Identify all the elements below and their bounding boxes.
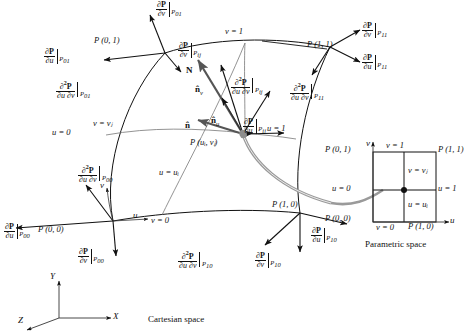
label-P11: P (1, 1)	[307, 40, 333, 49]
label-axis-x: X	[113, 312, 119, 321]
deriv-d2Pdudv-P00: ∂2P∂u ∂v P00	[78, 164, 112, 184]
label-param-corner-00: P (0, 0)	[325, 214, 351, 223]
label-N-vector: N	[186, 66, 193, 75]
label-surface-v-eq-1: v = 1	[225, 27, 243, 36]
vectors-at-P11	[312, 30, 360, 75]
deriv-dPdv-Pij: ∂P∂v Pij	[178, 42, 201, 59]
label-local-v: v	[100, 181, 104, 190]
parametric-axes	[373, 142, 449, 222]
dPdu-P11-arrow	[330, 47, 360, 62]
label-surface-u-eq-1: u = 1	[267, 124, 286, 133]
label-P10: P (1, 0)	[272, 200, 298, 209]
label-axis-y: Y	[50, 272, 55, 281]
dPdu-P00-arrow	[16, 221, 113, 228]
deriv-dPdu-Pij: ∂P∂u Pij	[243, 118, 266, 135]
deriv-d2Pdudv-P10: ∂2P∂u ∂v P10	[178, 250, 212, 270]
label-param-axis-u: u	[450, 216, 455, 225]
deriv-d2Pdudv-P11: ∂2P∂u ∂v P11	[290, 82, 324, 102]
deriv-dPdv-P00: ∂P∂v P00	[78, 248, 104, 265]
deriv-dPdu-P11: ∂P∂u P11	[362, 54, 387, 71]
label-surface-v-eq-0: v = 0	[151, 216, 169, 225]
dPdv-P11-arrow	[330, 30, 360, 47]
deriv-d2Pdudv-P01: ∂2P∂u ∂v P01	[56, 80, 90, 100]
vectors-at-P00	[16, 185, 116, 256]
dPdu-P01-arrow	[104, 53, 165, 60]
label-axis-z: Z	[18, 316, 23, 325]
caption-cartesian-space: Cartesian space	[148, 315, 204, 324]
d2Pdudv-P10-arrow	[265, 213, 300, 245]
deriv-dPdu-P10: ∂P∂u P10	[311, 227, 337, 244]
parametric-space-box	[373, 152, 436, 222]
deriv-dPdu-P01: ∂P∂u P01	[44, 48, 70, 65]
z-axis	[27, 318, 59, 330]
d2Pdudv-P11-arrow	[312, 47, 330, 75]
label-param-right: u = 1	[438, 184, 457, 193]
label-n-hat: n̂	[185, 121, 190, 130]
caption-parametric-space: Parametric space	[365, 240, 426, 249]
label-param-top: v = 1	[386, 141, 404, 150]
label-param-corner-10: P (1, 0)	[408, 222, 434, 231]
label-n-hat-u: n̂u	[211, 116, 219, 127]
label-P01: P (0, 1)	[94, 36, 120, 45]
label-param-corner-01: P (0, 1)	[325, 145, 351, 154]
label-surface-u-eq-0: u = 0	[52, 128, 71, 137]
label-param-axis-v: v	[366, 139, 370, 148]
dPdv-P00-arrow	[113, 221, 116, 256]
label-param-bottom: v = 0	[376, 223, 394, 232]
label-P00: P (0, 0)	[38, 225, 64, 234]
label-param-inner-v: v = vⱼ	[408, 166, 427, 175]
deriv-dPdu-P00: ∂P∂u P00	[4, 223, 30, 240]
deriv-d2Pdudv-Pij: ∂2P∂u ∂v Pij	[231, 76, 263, 96]
label-param-left: u = 0	[332, 184, 351, 193]
param-point-marker	[401, 187, 407, 193]
deriv-dPdv-P01: ∂P∂v P01	[156, 1, 182, 18]
label-local-u: u	[133, 211, 138, 220]
label-surface-u-eq-ui: u = uᵢ	[159, 168, 179, 177]
deriv-dPdv-P11: ∂P∂v P11	[362, 22, 387, 39]
highlight-curve	[243, 134, 383, 204]
label-n-hat-v: n̂v	[195, 85, 203, 96]
label-Pij: P (uᵢ, vⱼ)	[190, 138, 217, 147]
local-axes-at-P00	[107, 188, 148, 221]
deriv-dPdv-P10: ∂P∂v P10	[255, 252, 281, 269]
label-param-corner-11: P (1, 1)	[438, 145, 464, 154]
dPdv-P01-arrow	[150, 15, 165, 53]
label-surface-v-eq-vj: v = vⱼ	[93, 119, 112, 128]
label-param-inner-u: u = uᵢ	[408, 200, 428, 209]
global-axes	[27, 281, 111, 330]
